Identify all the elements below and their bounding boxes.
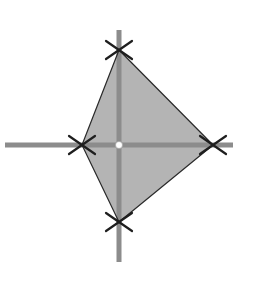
origin-dot (116, 142, 123, 149)
polygon-diagram (0, 0, 254, 292)
